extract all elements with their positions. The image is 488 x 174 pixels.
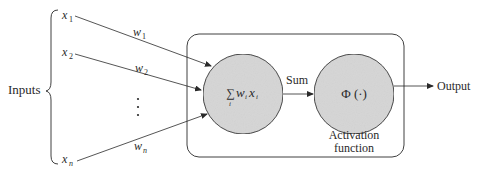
input-x2: x 2 [61,45,73,61]
weight-w2: w 2 [135,61,148,77]
inputs-label: Inputs [8,82,41,97]
sum-label: Sum [286,73,309,87]
term-x: x [248,85,255,100]
input-xn-var: x [61,152,68,166]
activation-symbol: Φ (·) [341,86,367,101]
input-xn: x n [61,152,73,168]
weight-w1-sub: 1 [142,32,146,41]
sigma-index: i [229,100,231,108]
activation-label-line2: function [334,141,374,155]
edge-xn [77,114,207,161]
output-label: Output [437,79,471,93]
sigma-symbol: ∑ [226,86,235,100]
input-x1-var: x [61,8,68,22]
activation-label-line1: Activation [329,128,380,142]
term-w: w [236,85,245,100]
term-x-sub: i [256,93,258,101]
weight-wn-sub: n [143,146,147,155]
term-w-sub: i [245,93,247,101]
weight-w1: w 1 [133,25,146,41]
input-x1: x 1 [61,8,73,24]
weight-w2-sub: 2 [144,68,148,77]
input-x2-sub: 2 [69,52,73,61]
weight-w1-var: w [133,25,141,39]
ellipsis-dots [137,98,139,116]
inputs-brace [46,10,58,164]
input-x2-var: x [61,45,68,59]
weight-wn: w n [134,139,147,155]
neuron-diagram: Inputs x 1 x 2 x n w 1 w 2 w n ∑ i w [0,0,488,174]
input-xn-sub: n [69,159,73,168]
weight-w2-var: w [135,61,143,75]
weight-wn-var: w [134,139,142,153]
edge-x1 [75,16,211,66]
input-x1-sub: 1 [69,15,73,24]
